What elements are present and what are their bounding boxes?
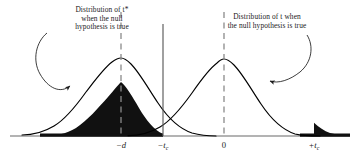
right-label-line2: the null hypothesis is true: [203, 22, 331, 31]
distribution-figure: Distribution of t* when the null hypothe…: [0, 0, 352, 162]
tick-text-minus-tc: −t: [158, 140, 166, 150]
left-label-line3: hypothesis is true: [52, 23, 152, 32]
left-tail-shade: [40, 82, 163, 136]
left-annotation-arrow: [36, 33, 70, 90]
right-tail-shade: [300, 105, 350, 136]
tick-label-minus-d: −d: [108, 140, 134, 150]
tick-label-zero: 0: [212, 140, 236, 150]
tick-text-plus-tc: +t: [309, 140, 317, 150]
tick-text-minus-d: −d: [116, 140, 126, 150]
tick-label-plus-tc: +tc: [301, 140, 327, 150]
left-distribution-label: Distribution of t* when the null hypothe…: [52, 6, 152, 32]
tick-label-minus-tc: −tc: [150, 140, 176, 150]
tick-text-zero: 0: [222, 140, 226, 150]
right-annotation-arrow: [270, 35, 311, 82]
right-distribution-label: Distribution of t when the null hypothes…: [203, 13, 331, 30]
